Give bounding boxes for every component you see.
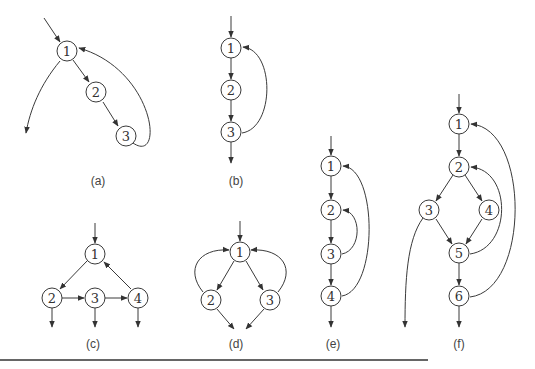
edge-d-1-2 (217, 261, 234, 290)
node-f-1: 1 (449, 114, 469, 134)
panel-d: 1 2 3 (d) (195, 221, 286, 351)
svg-text:1: 1 (236, 245, 244, 260)
edge-f-3-5 (436, 219, 452, 244)
edge-f-4-5 (466, 219, 482, 244)
node-d-3: 3 (260, 290, 280, 310)
panel-b: 1 2 3 (b) (221, 16, 267, 188)
node-f-6: 6 (449, 286, 469, 306)
back-edge-d-2-1 (195, 250, 229, 292)
panel-e: 1 2 3 4 (e) (321, 136, 369, 351)
caption-a: (a) (91, 174, 106, 188)
svg-text:4: 4 (485, 203, 493, 218)
node-e-3: 3 (321, 244, 341, 264)
node-e-4: 4 (321, 286, 341, 306)
back-edge-d-3-1 (251, 250, 286, 292)
edge-f-2-4 (465, 175, 482, 201)
svg-text:2: 2 (48, 291, 56, 306)
node-b-1: 1 (221, 38, 241, 58)
svg-text:3: 3 (327, 247, 335, 262)
edge-a-1-2 (73, 60, 89, 82)
node-c-4: 4 (128, 288, 148, 308)
svg-text:1: 1 (91, 247, 99, 262)
edge-f-2-3 (436, 175, 453, 201)
node-b-2: 2 (221, 80, 241, 100)
svg-text:3: 3 (122, 129, 130, 144)
caption-d: (d) (229, 337, 244, 351)
svg-text:6: 6 (455, 289, 463, 304)
exit-edge-d-3 (246, 309, 264, 329)
node-f-2: 2 (449, 157, 469, 177)
svg-text:4: 4 (327, 289, 335, 304)
node-d-2: 2 (201, 290, 221, 310)
back-edge-e-3-2 (342, 210, 357, 254)
entry-arrow-a (44, 18, 60, 42)
caption-f: (f) (453, 337, 464, 351)
svg-text:2: 2 (207, 293, 215, 308)
svg-text:2: 2 (327, 203, 335, 218)
edge-d-1-3 (246, 261, 263, 290)
edge-c-1-2 (60, 261, 87, 289)
node-a-1: 1 (57, 41, 77, 61)
exit-edge-d-2 (217, 309, 234, 329)
back-edge-b-3-1 (242, 47, 267, 133)
svg-text:3: 3 (266, 293, 274, 308)
svg-text:1: 1 (455, 117, 463, 132)
svg-text:1: 1 (63, 44, 71, 59)
node-c-1: 1 (85, 244, 105, 264)
node-c-3: 3 (85, 288, 105, 308)
back-edge-e-4-1 (342, 166, 369, 296)
panel-c: 1 2 3 4 (c) (42, 223, 148, 351)
svg-text:5: 5 (455, 246, 463, 261)
node-c-2: 2 (42, 288, 62, 308)
svg-text:4: 4 (134, 291, 142, 306)
edge-c-4-1 (104, 262, 131, 289)
svg-text:1: 1 (327, 159, 335, 174)
control-flow-graphs-figure: 1 2 3 (a) 1 2 3 (b) 1 2 3 4 (c) (0, 0, 535, 369)
node-e-1: 1 (321, 156, 341, 176)
node-a-2: 2 (86, 82, 106, 102)
exit-edge-f-3 (405, 218, 423, 327)
svg-text:2: 2 (92, 85, 100, 100)
exit-edge-a-1 (26, 61, 60, 133)
node-b-3: 3 (221, 122, 241, 142)
edge-a-2-3 (103, 102, 118, 126)
panel-f: 1 2 3 4 5 6 (f) (405, 94, 515, 351)
svg-text:2: 2 (227, 83, 235, 98)
svg-text:3: 3 (91, 291, 99, 306)
svg-text:3: 3 (425, 203, 433, 218)
node-f-3: 3 (419, 200, 439, 220)
caption-b: (b) (229, 174, 244, 188)
node-f-4: 4 (479, 200, 499, 220)
node-a-3: 3 (116, 126, 136, 146)
caption-c: (c) (86, 337, 100, 351)
node-d-1: 1 (230, 242, 250, 262)
caption-e: (e) (326, 337, 341, 351)
node-e-2: 2 (321, 200, 341, 220)
svg-text:2: 2 (455, 160, 463, 175)
svg-text:1: 1 (227, 41, 235, 56)
node-f-5: 5 (449, 243, 469, 263)
svg-text:3: 3 (227, 125, 235, 140)
panel-a: 1 2 3 (a) (26, 18, 150, 188)
